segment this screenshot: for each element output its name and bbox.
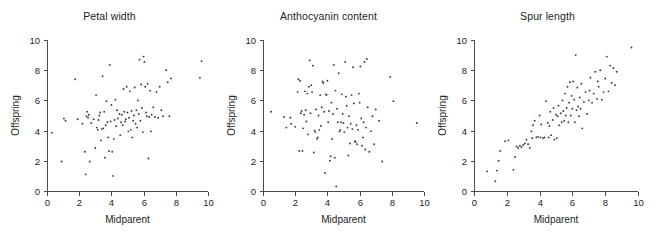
x-tick-label: 0 (261, 197, 266, 208)
data-point (351, 94, 353, 96)
data-point (330, 102, 332, 104)
data-point (345, 96, 347, 98)
y-tick-label: 6 (35, 95, 40, 106)
data-point (108, 150, 110, 152)
y-tick-label: 8 (251, 65, 256, 76)
data-point (119, 134, 121, 136)
data-point (580, 108, 582, 110)
data-point (321, 106, 323, 108)
data-point (496, 170, 498, 172)
data-point (294, 126, 296, 128)
y-tick-label: 8 (462, 65, 467, 76)
data-point (95, 94, 97, 96)
x-tick-label: 0 (45, 197, 50, 208)
data-point (132, 120, 134, 122)
data-point (373, 143, 375, 145)
data-point (550, 134, 552, 136)
data-point (348, 115, 350, 117)
data-point (87, 117, 89, 119)
data-point (102, 75, 104, 77)
data-point (539, 115, 541, 117)
data-point (375, 109, 377, 111)
x-axis-label: Midparent (321, 214, 366, 225)
data-point (65, 120, 67, 122)
data-point (335, 186, 337, 188)
data-point (498, 160, 500, 162)
data-point (346, 105, 348, 107)
data-point (381, 161, 383, 163)
data-point (143, 61, 145, 63)
data-point (581, 127, 583, 129)
data-point (565, 115, 567, 117)
data-point (361, 145, 363, 147)
data-point (537, 136, 539, 138)
data-point (131, 110, 133, 112)
x-tick-label: 2 (77, 197, 82, 208)
y-tick-label: 6 (251, 95, 256, 106)
data-point (547, 122, 549, 124)
data-point (339, 129, 341, 131)
data-point (519, 145, 521, 147)
data-point (570, 115, 572, 117)
data-points (486, 47, 632, 183)
data-point (524, 142, 526, 144)
data-point (529, 147, 531, 149)
data-point (285, 127, 287, 129)
data-point (342, 113, 344, 115)
data-point (154, 116, 156, 118)
data-point (589, 77, 591, 79)
data-point (167, 81, 169, 83)
data-point (576, 87, 578, 89)
data-point (416, 122, 418, 124)
data-point (344, 61, 346, 63)
data-point (347, 127, 349, 129)
y-tick-label: 10 (29, 35, 40, 46)
data-point (336, 108, 338, 110)
data-point (392, 100, 394, 102)
y-tick-label: 0 (35, 186, 40, 197)
data-point (310, 84, 312, 86)
y-tick-label: 2 (462, 156, 467, 167)
data-point (146, 115, 148, 117)
data-point (88, 114, 90, 116)
data-point (355, 141, 357, 143)
data-point (589, 90, 591, 92)
data-point (542, 137, 544, 139)
data-point (365, 127, 367, 129)
data-point (99, 112, 101, 114)
data-point (129, 90, 131, 92)
data-point (630, 47, 632, 49)
x-tick-label: 4 (538, 197, 543, 208)
data-point (121, 114, 123, 116)
data-point (84, 151, 86, 153)
data-point (306, 93, 308, 95)
data-point (324, 172, 326, 174)
data-point (98, 119, 100, 121)
y-tick-label: 10 (456, 35, 467, 46)
data-point (604, 78, 606, 80)
data-point (323, 111, 325, 113)
data-point (360, 118, 362, 120)
data-point (304, 90, 306, 92)
panel-spur-length: Spur length 02468100246810MidparentOffsp… (438, 0, 657, 241)
data-point (283, 116, 285, 118)
data-point (572, 81, 574, 83)
data-point (612, 67, 614, 69)
data-point (297, 78, 299, 80)
data-point (596, 98, 598, 100)
data-point (319, 94, 321, 96)
data-point (359, 65, 361, 67)
data-point (290, 123, 292, 125)
data-point (363, 61, 365, 63)
data-point (102, 127, 104, 129)
y-tick-label: 0 (462, 186, 467, 197)
data-point (372, 115, 374, 117)
data-point (351, 128, 353, 130)
y-axis-label: Offspring (10, 95, 21, 135)
data-point (378, 120, 380, 122)
data-point (123, 88, 125, 90)
data-point (563, 120, 565, 122)
data-point (586, 113, 588, 115)
data-point (315, 109, 317, 111)
data-point (526, 139, 528, 141)
